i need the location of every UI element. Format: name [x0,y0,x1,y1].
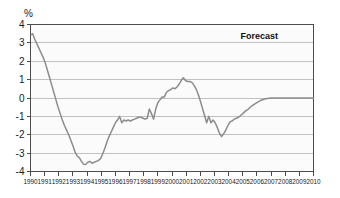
x-axis-tick-label: 2008 [278,178,293,185]
x-axis-tick-label: 1991 [38,178,53,185]
x-axis-tick-label: 2007 [264,178,279,185]
x-axis-tick-label: 1990 [23,178,38,185]
x-axis-tick-label: 2003 [207,178,222,185]
y-axis-tick-label: 0 [19,93,25,104]
y-axis-tick-label: 2 [19,56,25,67]
y-axis-tick-label: -2 [16,129,25,140]
chart-canvas: 43210-1-2-3-4 19901991199219931994199519… [0,0,340,198]
x-axis-tick-label: 2000 [165,178,180,185]
x-axis-tick-label: 1992 [52,178,67,185]
x-axis-tick-label: 1998 [137,178,152,185]
y-axis-unit-label: % [24,8,33,19]
y-axis-tick-label: -3 [16,148,25,159]
y-axis-tick-labels: 43210-1-2-3-4 [16,19,25,177]
forecast-annotation: Forecast [241,31,279,41]
x-axis-tick-label: 1995 [94,178,109,185]
y-axis-tick-label: 4 [19,19,25,30]
x-axis-tick-label: 1993 [66,178,81,185]
output-gap-chart: 43210-1-2-3-4 19901991199219931994199519… [0,0,340,198]
x-axis-tick-label: 1997 [122,178,137,185]
x-axis-tick-label: 2010 [306,178,321,185]
x-axis-tick-label: 2004 [221,178,236,185]
x-axis-tick-label: 2009 [292,178,307,185]
x-axis-tick-labels: 1990199119921993199419951996199719981999… [23,178,321,185]
y-axis-tick-label: 3 [19,37,25,48]
x-axis-tick-label: 1996 [108,178,123,185]
x-axis-tick-label: 2006 [250,178,265,185]
y-axis-tick-label: -4 [16,166,25,177]
y-axis-tick-label: 1 [19,74,25,85]
y-axis-tick-label: -1 [16,111,25,122]
x-axis-tick-label: 2001 [179,178,194,185]
x-axis-tick-label: 2002 [193,178,208,185]
x-axis-tick-label: 1994 [80,178,95,185]
x-axis-tick-label: 2005 [236,178,251,185]
x-axis-tick-marks [31,172,314,176]
x-axis-tick-label: 1999 [151,178,166,185]
